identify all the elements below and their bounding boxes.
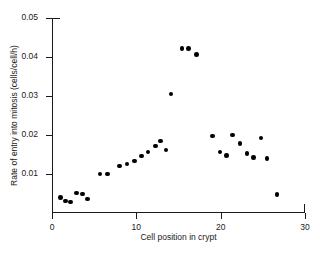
chart-page: Rate of entry into mitosis (cells/cell/h…: [0, 0, 320, 253]
x-tick: [221, 213, 222, 219]
y-tick: 0.03: [46, 96, 52, 97]
x-tick: [136, 213, 137, 219]
data-point: [218, 150, 223, 155]
data-point: [251, 155, 256, 160]
data-point: [105, 172, 110, 177]
data-point: [238, 141, 243, 146]
data-point: [85, 197, 90, 202]
data-point: [194, 52, 199, 57]
y-tick-label: 0.03: [21, 90, 38, 101]
data-point: [224, 153, 229, 158]
data-point: [74, 191, 79, 196]
data-point: [80, 192, 85, 197]
y-tick: 0.05: [46, 18, 52, 19]
data-point: [259, 136, 264, 141]
x-axis-right-stub: [304, 204, 305, 213]
y-tick: 0.02: [46, 135, 52, 136]
y-tick-label: 0.02: [21, 129, 38, 140]
data-point: [164, 148, 169, 153]
data-point: [158, 139, 163, 144]
data-point: [125, 162, 130, 167]
data-point: [153, 144, 158, 149]
data-point: [230, 133, 235, 138]
x-tick: [52, 213, 53, 219]
data-point: [98, 172, 103, 177]
y-axis-title: Rate of entry into mitosis (cells/cell/h…: [9, 18, 23, 213]
y-tick-label: 0.04: [21, 51, 38, 62]
data-point: [210, 134, 215, 139]
data-point: [63, 199, 68, 204]
data-point: [180, 46, 185, 51]
y-tick: 0.04: [46, 57, 52, 58]
data-point: [132, 159, 137, 164]
x-axis-line: [52, 212, 305, 213]
y-axis-top-stub: [52, 18, 60, 19]
data-point: [245, 151, 250, 156]
data-point: [139, 154, 144, 159]
y-tick-label: 0.01: [21, 168, 38, 179]
y-tick: 0.01: [46, 174, 52, 175]
data-point: [275, 192, 280, 197]
data-point: [186, 46, 191, 51]
data-point: [169, 92, 174, 97]
y-axis-line: [52, 18, 53, 213]
data-point: [146, 150, 151, 155]
y-tick-label: 0.05: [21, 12, 38, 23]
plot-area: 0.010.020.030.040.05 0102030: [52, 18, 305, 213]
data-point: [117, 164, 122, 169]
x-axis-title: Cell position in crypt: [52, 232, 305, 242]
data-point: [58, 195, 63, 200]
data-point: [265, 156, 270, 161]
x-tick: [305, 213, 306, 219]
data-point: [68, 200, 73, 205]
